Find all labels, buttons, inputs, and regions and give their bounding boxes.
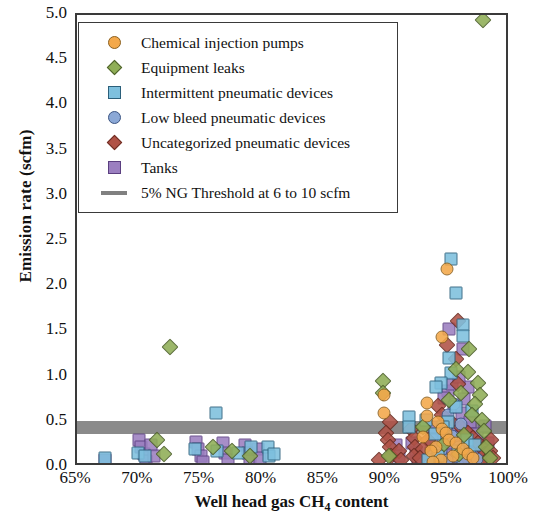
data-point: [402, 421, 415, 434]
x-tick-label: 95%: [431, 468, 462, 488]
data-point: [421, 396, 434, 409]
x-axis-title: Well head gas CH4 content: [75, 492, 508, 515]
data-point: [99, 451, 112, 464]
data-point: [449, 286, 462, 299]
data-point: [377, 406, 390, 419]
data-point: [466, 451, 479, 464]
x-tick-label: 90%: [369, 468, 400, 488]
x-tick-label: 85%: [307, 468, 338, 488]
scatter-chart-figure: Emission rate (scfm) 0.00.51.01.52.02.53…: [0, 0, 541, 518]
data-point: [440, 263, 453, 276]
data-point: [435, 330, 448, 343]
data-point: [377, 388, 390, 401]
data-point: [429, 381, 442, 394]
data-point: [267, 448, 280, 461]
data-point: [139, 450, 152, 463]
data-point: [447, 450, 460, 463]
data-point: [188, 442, 201, 455]
data-point: [209, 406, 222, 419]
x-tick-label: 80%: [245, 468, 276, 488]
x-tick-label: 100%: [488, 468, 528, 488]
x-tick-label: 75%: [183, 468, 214, 488]
x-tick-label: 70%: [121, 468, 152, 488]
x-tick-label: 65%: [59, 468, 90, 488]
data-point: [417, 431, 430, 444]
